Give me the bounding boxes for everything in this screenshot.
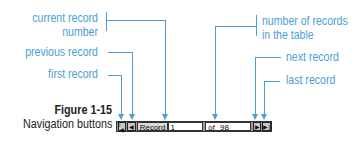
last-record-button[interactable]: ▶| [262,122,271,131]
arrow-current-record [162,114,168,120]
of-label: of [208,123,215,130]
callout-last-record: last record [286,73,356,87]
arrow-previous-record [129,114,135,120]
leader-number-of-records-v [215,26,216,115]
bracket-current-record [106,12,107,31]
leader-previous-record-v [132,52,133,115]
record-count: of 98 [205,122,251,131]
callout-previous-record: previous record [0,45,98,59]
leader-number-of-records-h [215,26,257,27]
leader-current-record-h [106,20,166,21]
callout-number-of-records: number of records in the table [262,14,359,42]
leader-current-record-v [165,20,166,115]
arrow-first-record [118,114,124,120]
callout-next-record: next record [286,50,356,64]
next-record-button[interactable]: ▶ [253,122,261,131]
callout-first-record: first record [0,67,98,81]
arrow-number-of-records [212,114,218,120]
figure-caption: Navigation buttons [23,117,112,131]
leader-last-record-v [264,81,265,115]
leader-first-record-v [121,75,122,115]
next-record-icon: ▶ [255,124,260,130]
first-record-icon: |◀ [119,121,125,133]
leader-previous-record-h [108,52,133,53]
previous-record-button[interactable]: ◀ [127,122,135,131]
leader-last-record-h [264,81,280,82]
leader-next-record-v [255,57,256,115]
current-record-input[interactable]: 1 [168,122,203,131]
record-navigation-bar: |◀ ◀ Record 1 of 98 ▶ ▶| [116,121,272,132]
figure-title: Figure 1-15 [54,103,112,117]
first-record-button[interactable]: |◀ [118,122,126,131]
leader-next-record-h [255,57,281,58]
arrow-next-record [252,114,258,120]
previous-record-icon: ◀ [129,124,134,130]
record-label: Record [137,122,169,131]
callout-current-record: current record number [0,11,98,39]
total-records: 98 [220,123,229,130]
arrow-last-record [261,114,267,120]
last-record-icon: ▶| [263,124,270,130]
leader-first-record-h [108,75,122,76]
